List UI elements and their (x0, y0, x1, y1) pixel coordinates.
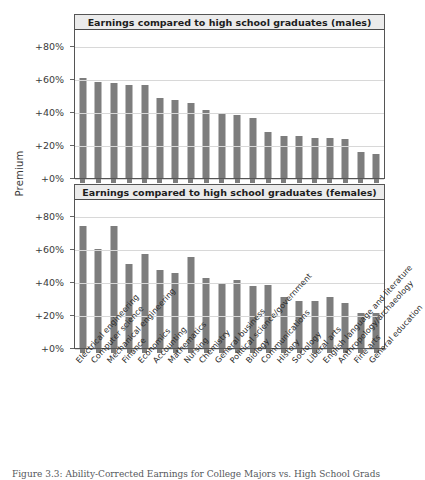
x-tick-mark (204, 179, 209, 183)
bar (357, 152, 364, 178)
bar-slot (322, 200, 338, 348)
bar-slot (214, 200, 230, 348)
panel-females-title: Earnings compared to high school graduat… (75, 185, 384, 200)
bar (79, 226, 86, 348)
y-tick-mark (70, 282, 74, 283)
bar (172, 100, 179, 178)
x-tick-mark (374, 349, 379, 353)
x-tick-mark (343, 349, 348, 353)
x-tick-mark (358, 179, 363, 183)
bar-slot (230, 30, 246, 178)
bar-slot (152, 30, 168, 178)
bar (326, 297, 333, 348)
bar-slot (90, 30, 106, 178)
x-tick-mark (157, 179, 162, 183)
bar-slot (338, 30, 354, 178)
bar (249, 118, 256, 178)
y-tick-mark (70, 178, 74, 179)
bar (79, 78, 86, 178)
x-tick-mark (142, 349, 147, 353)
bar-slot (199, 200, 215, 348)
bar (249, 286, 256, 348)
y-tick-mark (70, 46, 74, 47)
y-tick-mark (70, 249, 74, 250)
x-tick-mark (235, 349, 240, 353)
x-tick-mark (266, 179, 271, 183)
x-tick-mark (250, 179, 255, 183)
panel-females: Earnings compared to high school graduat… (74, 184, 385, 349)
y-tick-mark (70, 145, 74, 146)
bar-slot (353, 200, 369, 348)
bar-slot (183, 200, 199, 348)
bar (172, 273, 179, 348)
bar-slot (260, 30, 276, 178)
bar-slot (75, 30, 91, 178)
x-tick-mark (142, 179, 147, 183)
bar-slot (183, 30, 199, 178)
y-tick-label: +60% (35, 244, 64, 255)
x-tick-mark (281, 349, 286, 353)
bar-slot (276, 30, 292, 178)
bars-females (75, 201, 384, 348)
bar (126, 85, 133, 178)
x-tick-mark (358, 349, 363, 353)
x-tick-mark (80, 179, 85, 183)
bar (373, 154, 380, 178)
x-tick-mark (250, 349, 255, 353)
bar-slot (353, 30, 369, 178)
bar (126, 264, 133, 348)
y-axis-females: +80%+60%+40%+20%+0% (0, 0, 70, 480)
bar (311, 138, 318, 178)
bar-slot (338, 200, 354, 348)
bar-slot (137, 200, 153, 348)
bar (187, 257, 194, 348)
bar-slot (75, 200, 91, 348)
panel-males-title: Earnings compared to high school graduat… (75, 15, 384, 30)
x-tick-mark (111, 349, 116, 353)
x-tick-mark (96, 179, 101, 183)
plot-area-males (75, 31, 384, 178)
bar-slot (199, 30, 215, 178)
bar (187, 103, 194, 178)
x-tick-mark (219, 349, 224, 353)
bars-males (75, 31, 384, 178)
bar-slot (168, 30, 184, 178)
plot-area-females (75, 201, 384, 348)
x-tick-mark (127, 179, 132, 183)
bar-slot (168, 200, 184, 348)
gridline (75, 250, 384, 251)
bar (203, 110, 210, 178)
x-tick-mark (327, 349, 332, 353)
gridline (75, 349, 384, 350)
x-tick-mark (312, 179, 317, 183)
gridline (75, 113, 384, 114)
y-tick-label: +20% (35, 310, 64, 321)
x-tick-mark (80, 349, 85, 353)
bar-slot (106, 200, 122, 348)
bar (296, 301, 303, 348)
bar (280, 136, 287, 178)
x-tick-mark (188, 179, 193, 183)
bar (157, 270, 164, 348)
y-tick-mark (70, 79, 74, 80)
x-tick-mark (312, 349, 317, 353)
bar (234, 280, 241, 348)
y-tick-mark (70, 216, 74, 217)
x-tick-mark (343, 179, 348, 183)
bar-slot (291, 30, 307, 178)
gridline (75, 80, 384, 81)
bar (357, 313, 364, 348)
x-tick-mark (188, 349, 193, 353)
bar-slot (369, 30, 385, 178)
bar-slot (214, 30, 230, 178)
x-tick-mark (204, 349, 209, 353)
bar-slot (106, 30, 122, 178)
bar-slot (90, 200, 106, 348)
x-tick-mark (173, 179, 178, 183)
panel-males: Earnings compared to high school graduat… (74, 14, 385, 179)
x-tick-mark (219, 179, 224, 183)
x-tick-mark (96, 349, 101, 353)
bar-slot (260, 200, 276, 348)
bar (342, 303, 349, 348)
